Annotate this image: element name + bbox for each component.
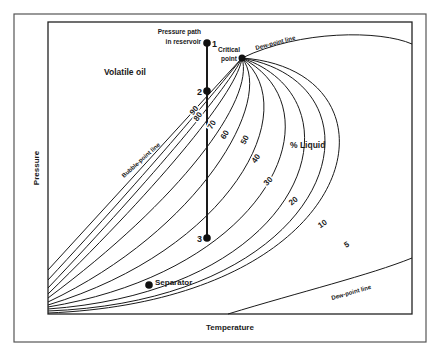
quality-label-10: 10 [316,217,329,230]
quality-label-5: 5 [343,240,352,250]
path-point-3 [203,234,211,242]
x-axis-label: Temperature [206,323,254,332]
quality-label-40: 40 [250,152,263,165]
y-axis-label: Pressure [32,150,41,185]
plot-frame [48,22,412,314]
dew-point-line-top-label: Dew-point line [255,34,297,51]
curve-group [48,35,412,314]
quality-label-60: 60 [219,128,232,141]
quality-label-30: 30 [262,175,275,188]
quality-line-5 [48,58,339,313]
path-point-2-label: 2 [197,87,202,97]
quality-line-10 [48,58,325,311]
dew-point-line-bottom-label: Dew-point line [331,284,373,301]
path-point-3-label: 3 [197,234,202,244]
separator-marker [145,281,153,289]
quality-label-50: 50 [239,133,251,146]
percent-liquid-label: % Liquid [290,140,325,150]
quality-line-30 [48,58,285,307]
critical-point-marker [239,55,246,62]
quality-line-90 [48,58,242,280]
bubble-point-line-label: Bubble-point line [121,141,162,179]
quality-label-20: 20 [287,194,300,207]
bubble-point-line [48,58,242,270]
pressure-path-label-line1: Pressure path [158,28,201,36]
path-point-1 [203,39,211,47]
dew-point-line-bottom [228,258,412,314]
separator-label: Separator [155,278,192,287]
region-title: Volatile oil [104,67,146,77]
critical-point-label-line1: Critical [218,46,240,53]
outer-frame [14,14,426,342]
phase-diagram: 1 2 3 Pressure path in reservoir Critica… [0,0,440,356]
critical-point-label-line2: point [221,55,238,63]
pressure-path-label-line2: in reservoir [166,38,202,45]
path-point-2 [203,87,211,95]
quality-line-50 [48,58,250,302]
path-point-1-label: 1 [212,39,217,49]
